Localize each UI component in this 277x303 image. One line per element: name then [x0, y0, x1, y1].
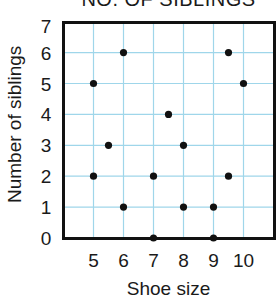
tick-labels: 567891001234567 — [41, 16, 254, 271]
data-point — [90, 173, 97, 180]
data-point — [165, 111, 172, 118]
x-tick-label: 5 — [88, 250, 99, 271]
y-tick-label: 3 — [41, 135, 52, 156]
data-point — [225, 173, 232, 180]
data-point — [210, 204, 217, 211]
data-point — [105, 142, 112, 149]
y-tick-label: 2 — [41, 166, 52, 187]
data-point — [150, 234, 157, 241]
y-tick-label: 6 — [41, 43, 52, 64]
y-tick-label: 5 — [41, 74, 52, 95]
y-tick-label: 1 — [41, 197, 52, 218]
x-tick-label: 10 — [233, 250, 254, 271]
x-tick-label: 8 — [178, 250, 189, 271]
y-tick-label: 4 — [41, 104, 52, 125]
y-tick-label: 0 — [41, 228, 52, 249]
data-point — [210, 234, 217, 241]
x-tick-label: 9 — [208, 250, 219, 271]
plot-frame — [64, 23, 275, 239]
x-tick-label: 6 — [118, 250, 129, 271]
data-point — [240, 80, 247, 87]
data-point — [180, 204, 187, 211]
scatter-plot: 567891001234567 — [0, 0, 277, 303]
x-tick-label: 7 — [148, 250, 159, 271]
data-point — [120, 204, 127, 211]
data-point — [150, 173, 157, 180]
data-point — [120, 49, 127, 56]
data-point — [180, 142, 187, 149]
y-tick-label: 7 — [41, 16, 52, 37]
data-point — [225, 49, 232, 56]
data-point — [90, 80, 97, 87]
grid-lines — [63, 23, 274, 238]
